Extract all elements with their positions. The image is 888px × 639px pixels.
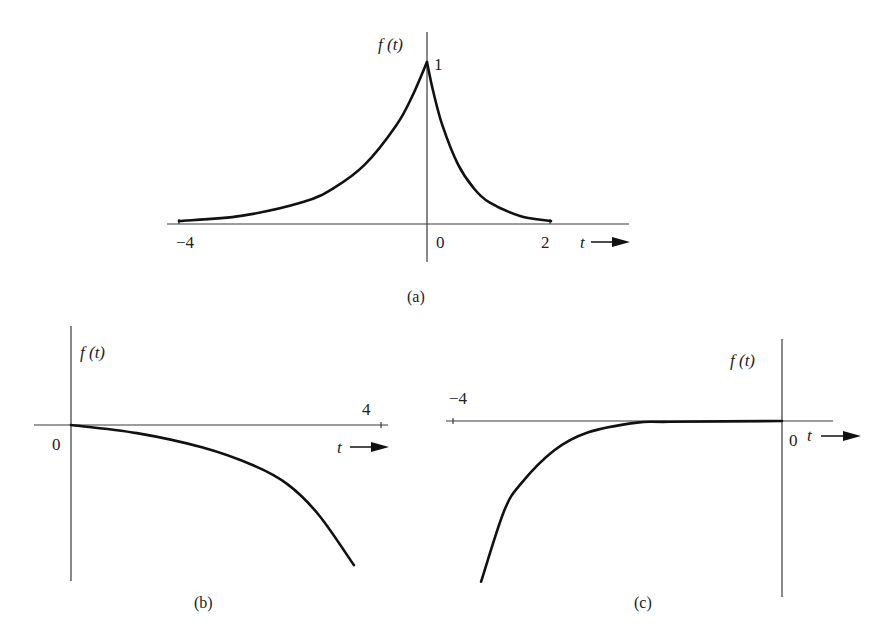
plot-a-arrow-icon bbox=[591, 237, 630, 247]
plot-a-curve-right bbox=[427, 62, 551, 221]
figure-canvas: f (t) 1 −4 0 2 t (a) f (t) 0 4 t (b) f (… bbox=[0, 0, 888, 639]
plot-a-ylabel: f (t) bbox=[378, 35, 403, 54]
plot-c-xlabel: t bbox=[807, 426, 813, 445]
plot-a-tick-label-origin: 0 bbox=[436, 233, 445, 252]
plot-b-xlabel: t bbox=[337, 438, 343, 457]
plot-b-ylabel: f (t) bbox=[80, 343, 105, 362]
plot-a-caption: (a) bbox=[407, 288, 425, 306]
plot-b-tick-label-right: 4 bbox=[362, 400, 371, 419]
plot-c: f (t) −4 0 t (c) bbox=[446, 339, 861, 612]
plot-a-tick-label-right: 2 bbox=[541, 233, 550, 252]
plot-c-arrow-icon bbox=[821, 431, 861, 441]
plot-c-ylabel: f (t) bbox=[730, 351, 755, 370]
plot-b-curve bbox=[71, 425, 354, 565]
plot-a: f (t) 1 −4 0 2 t (a) bbox=[167, 32, 630, 306]
plot-c-caption: (c) bbox=[634, 594, 652, 612]
plot-b-arrow-icon bbox=[350, 442, 389, 452]
plot-c-tick-label-left: −4 bbox=[449, 389, 468, 408]
plot-c-tick-label-origin: 0 bbox=[789, 431, 798, 450]
plot-b-tick-label-origin: 0 bbox=[52, 435, 61, 454]
plot-c-curve bbox=[481, 421, 782, 582]
plot-a-xlabel: t bbox=[580, 233, 586, 252]
plot-b: f (t) 0 4 t (b) bbox=[34, 326, 389, 612]
plot-a-curve-left bbox=[179, 62, 427, 221]
plot-b-caption: (b) bbox=[194, 594, 213, 612]
plot-a-tick-label-left: −4 bbox=[176, 233, 195, 252]
plot-a-peak-label: 1 bbox=[434, 55, 443, 74]
